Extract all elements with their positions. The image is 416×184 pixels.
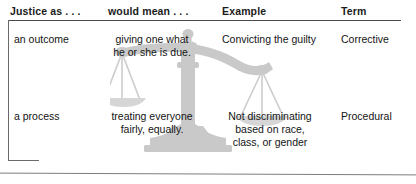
- cell-row0-example: Convicting the guilty: [222, 33, 316, 46]
- table-top-border: [8, 20, 401, 21]
- cell-row0-term: Corrective: [341, 33, 389, 46]
- cell-row1-term: Procedural: [341, 110, 392, 123]
- cell-row0-justice-as: an outcome: [14, 33, 69, 46]
- column-header-term: Term: [341, 5, 367, 17]
- cell-row0-would-mean: giving one what he or she is due.: [108, 33, 196, 59]
- table-left-border: [8, 20, 9, 161]
- column-header-example: Example: [222, 5, 266, 17]
- column-header-justice-as: Justice as . . .: [10, 5, 81, 17]
- cell-row1-would-mean: treating everyone fairly, equally.: [106, 110, 198, 136]
- table-bottom-left-stub: [8, 160, 39, 161]
- cell-row1-justice-as: a process: [14, 110, 60, 123]
- justice-table-figure: Justice as . . . would mean . . . Exampl…: [0, 0, 416, 184]
- column-header-would-mean: would mean . . .: [108, 5, 189, 17]
- page-bottom-rule: [0, 172, 416, 176]
- cell-row1-example: Not discriminating based on race, class,…: [218, 110, 322, 150]
